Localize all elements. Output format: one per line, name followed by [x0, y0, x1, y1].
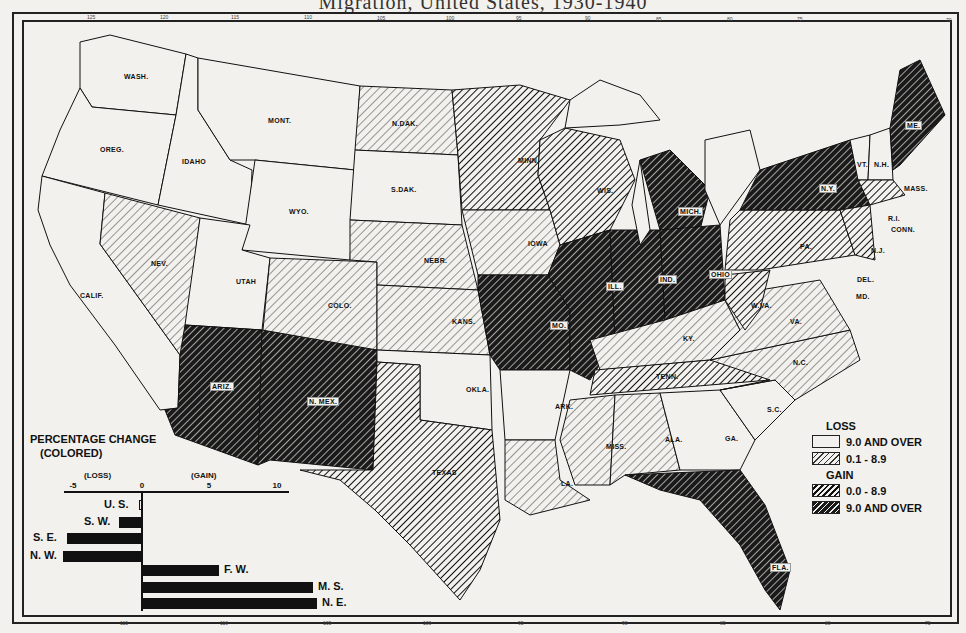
- label-ind: IND.: [658, 275, 677, 284]
- label-sdak: S.DAK.: [391, 186, 417, 193]
- legend-item: 0.1 - 8.9: [812, 452, 922, 465]
- label-iowa: IOWA: [528, 240, 548, 247]
- bar-x-axis: [64, 491, 289, 493]
- bar-panel-title: PERCENTAGE CHANGE (COLORED): [30, 432, 156, 460]
- label-ill: ILL.: [606, 282, 624, 291]
- state-fla: [625, 470, 790, 610]
- label-idaho: IDAHO: [182, 158, 206, 165]
- label-la: LA.: [561, 480, 573, 487]
- bar-se: [67, 533, 142, 544]
- label-mont: MONT.: [268, 117, 291, 124]
- swatch-blank-icon: [812, 435, 840, 448]
- label-vt: VT.: [857, 161, 868, 168]
- label-okla: OKLA.: [466, 386, 489, 393]
- legend-item: 9.0 AND OVER: [812, 501, 922, 514]
- state-me: [890, 60, 945, 170]
- legend-item: 0.0 - 8.9: [812, 484, 922, 497]
- gain-axis-label: (GAIN): [191, 471, 216, 480]
- state-nh: [868, 128, 893, 180]
- state-ny: [740, 140, 870, 210]
- label-sc: S.C.: [767, 406, 782, 413]
- label-mass: MASS.: [904, 185, 928, 192]
- label-wva: W.VA.: [751, 302, 772, 309]
- label-pa: PA.: [800, 243, 812, 250]
- bar-label-us: U. S.: [104, 498, 128, 510]
- label-ark: ARK.: [555, 403, 573, 410]
- label-kans: KANS.: [452, 318, 475, 325]
- bar-label-fw: F. W.: [224, 563, 248, 575]
- label-oreg: OREG.: [100, 146, 124, 153]
- swatch-light-hatch-icon: [812, 452, 840, 465]
- label-nev: NEV.: [151, 260, 168, 267]
- label-ga: GA.: [725, 435, 738, 442]
- legend-gain-heading: GAIN: [826, 469, 922, 481]
- label-ala: ALA.: [665, 436, 683, 443]
- label-nh: N.H.: [874, 161, 889, 168]
- label-minn: MINN.: [518, 157, 539, 164]
- label-texas: TEXAS: [432, 469, 457, 476]
- state-mich: [640, 150, 710, 230]
- label-wis: WIS.: [597, 187, 613, 194]
- tick-label: 5: [207, 481, 211, 490]
- bar-label-ms: M. S.: [318, 580, 344, 592]
- bar-ne: [143, 598, 317, 609]
- label-colo: COLO.: [328, 302, 352, 309]
- bar-label-sw: S. W.: [84, 515, 110, 527]
- label-nj: N.J.: [871, 247, 885, 254]
- loss-axis-label: (LOSS): [84, 471, 111, 480]
- legend-loss-heading: LOSS: [826, 420, 922, 432]
- bar-label-nw: N. W.: [30, 549, 57, 561]
- label-va: VA.: [790, 318, 802, 325]
- label-nmex: N. MEX.: [307, 397, 339, 406]
- bar-fw: [143, 565, 219, 576]
- bar-nw: [63, 551, 142, 562]
- bar-ms: [143, 582, 313, 593]
- legend-item: 9.0 AND OVER: [812, 435, 922, 448]
- bar-us: [139, 500, 142, 510]
- map-legend: LOSS 9.0 AND OVER 0.1 - 8.9 GAIN 0.0 - 8…: [812, 420, 922, 518]
- label-ohio: OHIO: [709, 270, 732, 279]
- tick-label: 10: [273, 481, 282, 490]
- label-ri: R.I.: [888, 215, 900, 222]
- tick-label: -5: [69, 481, 76, 490]
- label-mich: MICH.: [678, 207, 703, 216]
- label-mo: MO.: [550, 321, 568, 330]
- bar-label-se: S. E.: [33, 531, 57, 543]
- bar-label-ne: N. E.: [322, 596, 346, 608]
- label-nebr: NEBR.: [424, 257, 447, 264]
- label-me: ME.: [905, 121, 922, 130]
- us-states-map: [0, 0, 966, 633]
- bar-sw: [119, 517, 142, 528]
- label-ny: N.Y.: [819, 184, 837, 193]
- label-ariz: ARIZ.: [210, 382, 234, 391]
- label-fla: FLA.: [770, 563, 791, 572]
- swatch-medium-hatch-icon: [812, 484, 840, 497]
- label-calif: CALIF.: [80, 292, 104, 299]
- lake-superior: [565, 80, 660, 128]
- label-wash: WASH.: [124, 73, 148, 80]
- label-tenn: TENN.: [656, 373, 679, 380]
- label-miss: MISS.: [606, 443, 627, 450]
- state-pa: [725, 210, 855, 270]
- tick-label: 0: [140, 481, 144, 490]
- swatch-dark-hatch-icon: [812, 501, 840, 514]
- label-del: DEL.: [857, 276, 874, 283]
- label-conn: CONN.: [891, 226, 915, 233]
- label-ndak: N.DAK.: [392, 120, 418, 127]
- label-nc: N.C.: [793, 359, 808, 366]
- label-md: MD.: [856, 293, 870, 300]
- label-ky: KY.: [683, 335, 695, 342]
- label-wyo: WYO.: [289, 208, 309, 215]
- label-utah: UTAH: [236, 278, 256, 285]
